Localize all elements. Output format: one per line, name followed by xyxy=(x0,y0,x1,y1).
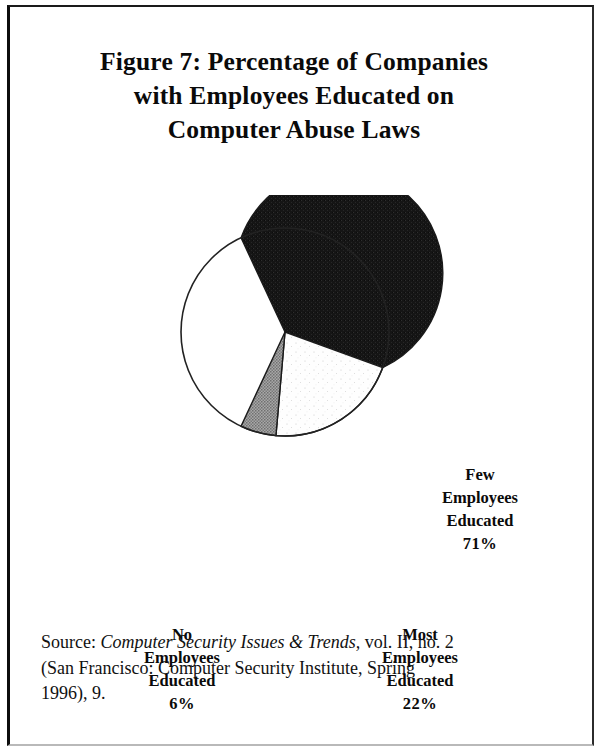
source-note-line-2: (San Francisco: Computer Security Instit… xyxy=(41,656,551,682)
figure-page: Figure 7: Percentage of Companies with E… xyxy=(0,0,608,752)
pie-label-few: Few Employees Educated 71% xyxy=(404,463,556,555)
figure-title-line-1: Figure 7: Percentage of Companies xyxy=(30,45,558,79)
source-note: Source: Computer Security Issues & Trend… xyxy=(41,630,551,707)
pie-label-few-line-2: Employees xyxy=(404,486,556,509)
pie-label-few-line-3: Educated xyxy=(404,509,556,532)
source-note-line-3: 1996), 9. xyxy=(41,681,551,707)
figure-title-line-2: with Employees Educated on xyxy=(30,79,558,113)
source-note-volume: vol. II, no. 2 xyxy=(365,632,454,652)
pie-slice-few xyxy=(241,195,443,368)
figure-title-line-3: Computer Abuse Laws xyxy=(30,113,558,147)
pie-label-few-line-1: Few xyxy=(404,463,556,486)
source-note-line-1: Source: Computer Security Issues & Trend… xyxy=(41,630,551,656)
pie-label-few-percent: 71% xyxy=(404,532,556,555)
source-note-prefix: Source: xyxy=(41,632,96,652)
pie-chart-area: Few Employees Educated 71% No Employees … xyxy=(0,195,608,575)
figure-title: Figure 7: Percentage of Companies with E… xyxy=(30,45,558,147)
source-note-work-title: Computer Security Issues & Trends, xyxy=(100,632,360,652)
